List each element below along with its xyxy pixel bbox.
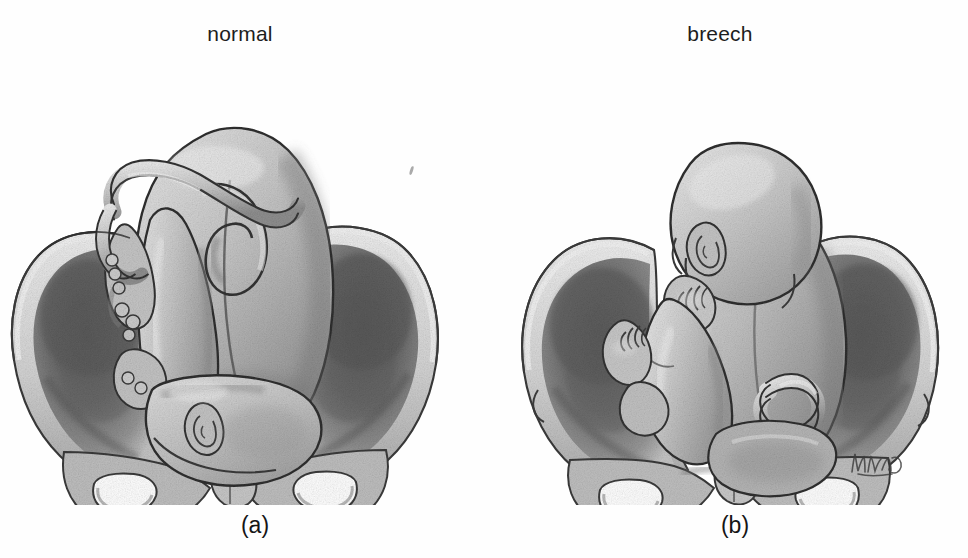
figure-board: normal breech — [0, 0, 968, 558]
artist-signature — [846, 446, 910, 480]
panel-label-normal: normal — [120, 22, 360, 46]
fetal-head-engaged — [146, 375, 321, 485]
illustration-normal-presentation — [2, 60, 470, 505]
illustration-breech-presentation — [494, 60, 962, 505]
panel-caption-a: (a) — [135, 512, 375, 539]
panel-label-breech: breech — [600, 22, 840, 46]
fetal-buttocks-in-inlet — [708, 421, 836, 496]
panel-caption-b: (b) — [615, 512, 855, 539]
